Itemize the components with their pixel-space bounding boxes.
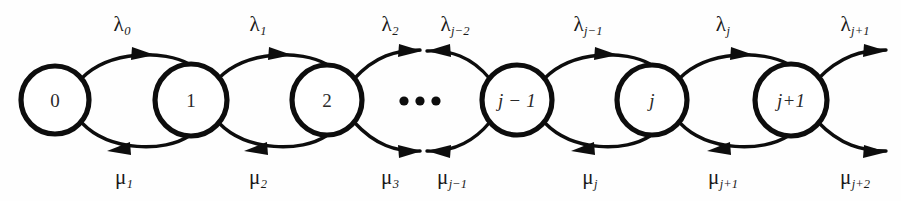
mu-subscript: 3 [392,176,399,190]
mu-subscript: 2 [260,176,267,190]
birth-arc-jp1-outgoing [818,50,886,79]
state-label-1: 1 [186,90,196,112]
state-label-j-plus-1: j+1 [777,90,805,112]
mu-glyph: μ [708,165,719,189]
death-rate-label-mu-j-plus-2: μj+2 [840,165,870,192]
death-rate-label-mu-1: μ1 [115,165,133,192]
mu-subscript: j−1 [448,176,467,190]
lambda-subscript: j−1 [584,23,603,37]
ellipsis-dot-2 [415,96,424,105]
death-rate-label-mu-2: μ2 [249,165,267,192]
lambda-glyph: λ [573,12,583,36]
lambda-subscript: 1 [260,23,267,37]
death-rate-label-mu-j-plus-1: μj+1 [708,165,738,192]
birth-rate-label-lambda-j-minus-1: λj−1 [573,12,602,39]
lambda-subscript: j+1 [851,23,870,37]
death-arc-jm1-outgoing [427,122,490,151]
death-arc-jp1-outgoing [818,122,886,151]
lambda-glyph: λ [840,12,850,36]
death-rate-label-mu-j: μj [582,165,597,192]
birth-rate-label-lambda-2: λ2 [381,12,398,39]
death-arrow-jp1-outgoing [863,145,887,158]
lambda-subscript: 2 [392,23,399,37]
mu-glyph: μ [115,165,126,189]
ellipsis-dots [399,96,440,105]
mu-glyph: μ [381,165,392,189]
state-label-2: 2 [322,90,332,112]
ellipsis-dot-1 [399,96,408,105]
birth-rate-label-lambda-j-plus-1: λj+1 [840,12,869,39]
lambda-subscript: j [726,23,730,37]
state-label-j-minus-1: j − 1 [498,90,536,112]
death-rate-label-mu-3: μ3 [381,165,399,192]
birth-arrow-2-outgoing [398,44,422,57]
birth-arc-incoming-to-jm1 [427,51,490,79]
mu-subscript: j [594,176,598,190]
state-label-j: j [649,90,654,112]
birth-rate-label-lambda-j-minus-2: λj−2 [440,12,469,39]
lambda-glyph: λ [249,12,259,36]
birth-arrow-incoming-to-jm1 [427,44,451,57]
lambda-glyph: λ [113,12,123,36]
lambda-glyph: λ [440,12,450,36]
birth-rate-label-lambda-j: λj [716,12,730,39]
death-arrow-incoming-to-2 [398,145,422,158]
mu-subscript: j+2 [851,176,870,190]
mu-subscript: 1 [126,176,133,190]
death-arc-incoming-to-2 [354,122,420,151]
ellipsis-dot-3 [431,96,440,105]
state-transition-diagram: 0 1 2 j − 1 j j+1 λ0 λ1 λ2 λj−2 λj−1 λj … [0,0,901,201]
death-rate-label-mu-j-minus-1: μj−1 [437,165,467,192]
birth-rate-label-lambda-0: λ0 [113,12,130,39]
lambda-glyph: λ [381,12,391,36]
mu-glyph: μ [249,165,260,189]
mu-subscript: j+1 [719,176,738,190]
birth-arrow-jp1-outgoing [863,44,887,57]
state-label-0: 0 [50,90,60,112]
death-arrow-jm1-outgoing [427,145,451,158]
lambda-subscript: j−2 [451,23,470,37]
mu-glyph: μ [840,165,851,189]
lambda-glyph: λ [716,12,726,36]
birth-rate-label-lambda-1: λ1 [249,12,266,39]
birth-arc-2-outgoing [354,50,420,79]
lambda-subscript: 0 [124,23,131,37]
mu-glyph: μ [437,165,448,189]
mu-glyph: μ [582,165,593,189]
